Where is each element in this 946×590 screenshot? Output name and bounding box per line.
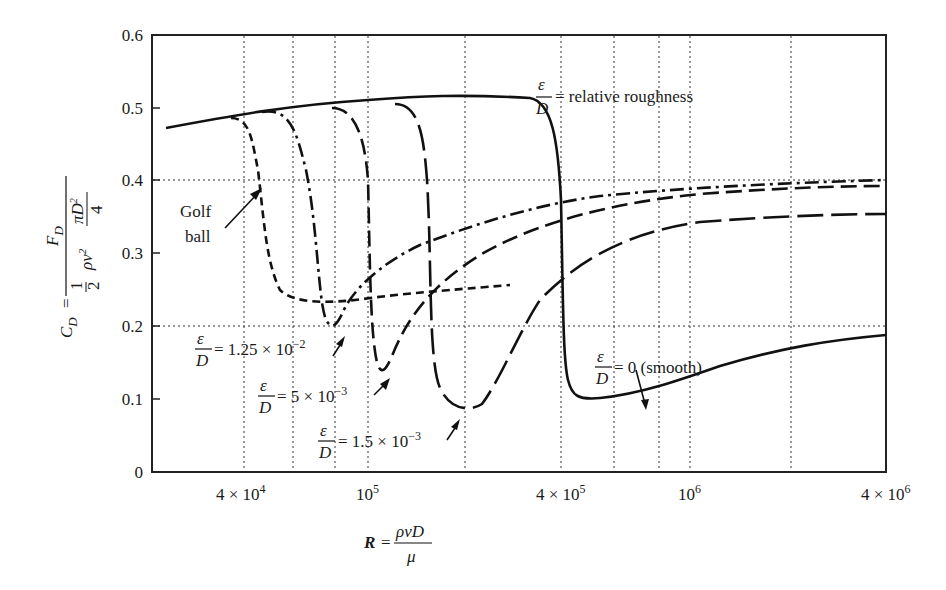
svg-text:CD: CD (57, 317, 80, 338)
svg-text:FD: FD (43, 226, 66, 247)
svg-text:D: D (535, 99, 549, 118)
curve-eps-5e-3 (332, 108, 886, 370)
curves (166, 96, 886, 408)
annotation-eps-1.25e-2: ε D = 1.25 × 10−2 (195, 329, 345, 370)
y-tick-0.3: 0.3 (122, 244, 143, 263)
svg-text:= 5 × 10−3: = 5 × 10−3 (277, 384, 347, 406)
svg-text:= 1.25 × 10−2: = 1.25 × 10−2 (214, 337, 305, 359)
svg-text:Golf: Golf (180, 202, 212, 221)
svg-text:= 1.5 × 10−3: = 1.5 × 10−3 (338, 429, 421, 451)
y-tick-0.4: 0.4 (122, 171, 144, 190)
annotation-golf-ball: Golf ball (180, 188, 262, 246)
svg-text:ε: ε (538, 75, 545, 94)
svg-text:ρvD: ρvD (395, 522, 425, 541)
y-axis-label: CD = FD 1 2 ρv2 πD2 4 (43, 176, 106, 338)
x-axis-label: R = ρvD μ (363, 522, 432, 566)
svg-text:= 0 (smooth): = 0 (smooth) (614, 358, 702, 377)
arrowhead-icon (336, 336, 345, 347)
x-tick-1e6: 106 (678, 482, 701, 504)
y-tick-0: 0 (135, 463, 144, 482)
svg-text:4: 4 (87, 205, 106, 214)
svg-text:ε: ε (597, 347, 604, 366)
x-tick-4e6: 4 × 106 (861, 482, 911, 504)
svg-text:ε: ε (260, 376, 267, 395)
x-tick-4e4: 4 × 104 (216, 482, 266, 504)
svg-text:ρv2: ρv2 (76, 248, 96, 271)
svg-text:ε: ε (197, 329, 204, 348)
svg-text:μ: μ (406, 547, 416, 566)
svg-text:D: D (595, 369, 609, 388)
x-tick-1e5: 105 (356, 482, 379, 504)
y-tick-0.5: 0.5 (122, 99, 143, 118)
svg-text:= relative roughness: = relative roughness (555, 87, 693, 106)
drag-coefficient-chart: 0 0.1 0.2 0.3 0.4 0.5 0.6 4 × 104 105 4 … (0, 0, 946, 590)
svg-text:=: = (57, 298, 76, 308)
curve-golf-ball (231, 118, 510, 302)
svg-text:R: R (363, 533, 375, 552)
annotation-eps-5e-3: ε D = 5 × 10−3 (258, 376, 390, 417)
y-tick-0.6: 0.6 (122, 26, 143, 45)
svg-text:πD2: πD2 (68, 198, 87, 224)
svg-text:ball: ball (185, 227, 211, 246)
x-tick-labels: 4 × 104 105 4 × 105 106 4 × 106 (216, 482, 911, 504)
arrowhead-icon (451, 419, 460, 430)
y-ticks (152, 108, 160, 399)
x-tick-4e5: 4 × 105 (536, 482, 586, 504)
curve-eps-1.25e-2 (262, 112, 886, 326)
y-tick-0.1: 0.1 (122, 390, 143, 409)
arrow-icon (225, 193, 258, 228)
svg-text:D: D (195, 351, 209, 370)
svg-text:ε: ε (320, 421, 327, 440)
svg-text:=: = (381, 533, 391, 552)
annotation-eps-1.5e-3: ε D = 1.5 × 10−3 (318, 419, 460, 462)
svg-text:2: 2 (84, 282, 103, 291)
svg-text:D: D (318, 443, 332, 462)
arrowhead-icon (641, 399, 649, 410)
y-tick-0.2: 0.2 (122, 317, 143, 336)
y-tick-labels: 0 0.1 0.2 0.3 0.4 0.5 0.6 (122, 26, 144, 482)
svg-text:D: D (258, 398, 272, 417)
